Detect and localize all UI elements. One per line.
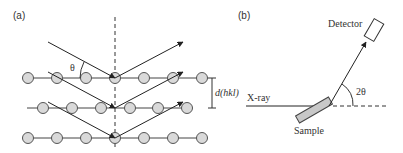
panel-a-label: (a) [13, 11, 25, 21]
atom [139, 133, 150, 144]
atom [168, 133, 179, 144]
atom [23, 73, 34, 84]
sample-label: Sample [294, 126, 324, 136]
atom [52, 73, 63, 84]
atom [52, 133, 63, 144]
two-theta-arc [342, 84, 353, 106]
atom [197, 133, 208, 144]
atom [81, 133, 92, 144]
xray-label: X-ray [247, 93, 270, 103]
atom [38, 103, 49, 114]
atom [96, 103, 107, 114]
panel-b-label: (b) [238, 11, 250, 21]
theta-label: θ [70, 63, 75, 73]
sample-plate [296, 97, 333, 123]
atom [153, 103, 164, 114]
atom [197, 73, 208, 84]
atom [139, 73, 150, 84]
atom [23, 133, 34, 144]
panel-b [246, 19, 386, 123]
atom [125, 103, 136, 114]
detector-box [364, 19, 384, 42]
detector-label: Detector [328, 19, 362, 29]
atom [81, 73, 92, 84]
atom [67, 103, 78, 114]
two-theta-label: 2θ [356, 87, 366, 97]
atom [168, 73, 179, 84]
atom [182, 103, 193, 114]
panel-a [22, 17, 216, 150]
incident-rays [48, 42, 115, 138]
reflected-rays [115, 42, 183, 138]
d-hkl-label: d(hkl) [215, 88, 239, 98]
